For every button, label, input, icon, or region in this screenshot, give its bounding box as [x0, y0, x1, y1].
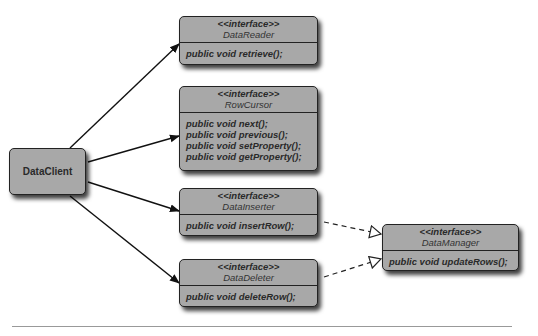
method: public void next(); [186, 118, 311, 129]
divider-line [12, 326, 512, 327]
realization-datadeleter [324, 259, 381, 277]
method: public void insertRow(); [186, 220, 311, 231]
interface-name: DataReader [180, 29, 317, 40]
method-list: public void retrieve(); [180, 43, 317, 64]
association-datainserter [88, 182, 179, 211]
stereotype: <<interface>> [180, 18, 317, 29]
method: public void deleteRow(); [186, 291, 311, 302]
method: public void updateRows(); [389, 256, 512, 267]
realization-datainserter [324, 222, 381, 234]
interface-name: DataManager [383, 237, 518, 248]
association-datareader [70, 44, 179, 148]
method-list: public void updateRows(); [383, 251, 518, 272]
datamanager-interface[interactable]: <<interface>> DataManager public void up… [382, 224, 519, 271]
interface-name: DataInserter [180, 201, 317, 212]
stereotype: <<interface>> [180, 261, 317, 272]
datareader-interface[interactable]: <<interface>> DataReader public void ret… [179, 16, 318, 65]
association-datadeleter [70, 196, 179, 283]
method: public void setProperty(); [186, 140, 311, 151]
method-list: public void deleteRow(); [180, 286, 317, 307]
association-rowcursor [88, 136, 179, 162]
method: public void previous(); [186, 129, 311, 140]
datainserter-interface[interactable]: <<interface>> DataInserter public void i… [179, 188, 318, 236]
interface-name: DataDeleter [180, 272, 317, 283]
interface-header: <<interface>> DataReader [180, 17, 317, 43]
interface-header: <<interface>> DataManager [383, 225, 518, 251]
stereotype: <<interface>> [180, 88, 317, 99]
interface-header: <<interface>> DataInserter [180, 189, 317, 215]
rowcursor-interface[interactable]: <<interface>> RowCursor public void next… [179, 86, 318, 171]
stereotype: <<interface>> [383, 226, 518, 237]
datadeleter-interface[interactable]: <<interface>> DataDeleter public void de… [179, 259, 318, 307]
method: public void getProperty(); [186, 151, 311, 162]
method: public void retrieve(); [186, 48, 311, 59]
method-list: public void next(); public void previous… [180, 113, 317, 167]
interface-header: <<interface>> RowCursor [180, 87, 317, 113]
class-name: DataClient [23, 166, 72, 177]
method-list: public void insertRow(); [180, 215, 317, 236]
interface-name: RowCursor [180, 99, 317, 110]
interface-header: <<interface>> DataDeleter [180, 260, 317, 286]
stereotype: <<interface>> [180, 190, 317, 201]
dataclient-class[interactable]: DataClient [9, 148, 86, 195]
